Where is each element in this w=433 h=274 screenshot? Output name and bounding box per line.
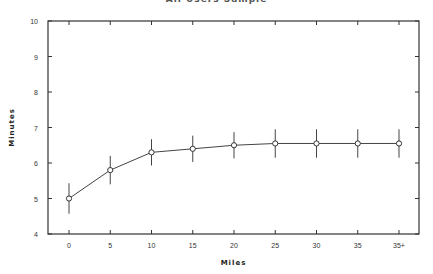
x-tick-label: 10 xyxy=(148,242,156,249)
x-tick-label: 35 xyxy=(354,242,362,249)
line-chart: 456789100510152025303535+MilesMinutes xyxy=(0,0,433,274)
x-tick-label: 25 xyxy=(271,242,279,249)
y-tick-label: 10 xyxy=(30,18,38,25)
data-point xyxy=(108,168,113,173)
x-tick-label: 0 xyxy=(67,242,71,249)
y-tick-label: 4 xyxy=(34,231,38,238)
x-tick-label: 15 xyxy=(189,242,197,249)
y-tick-label: 8 xyxy=(34,89,38,96)
data-point xyxy=(355,141,360,146)
data-point xyxy=(190,146,195,151)
data-point xyxy=(314,141,319,146)
x-tick-label: 5 xyxy=(108,242,112,249)
y-tick-label: 9 xyxy=(34,54,38,61)
plot-frame xyxy=(48,21,419,234)
data-point xyxy=(231,143,236,148)
x-tick-label: 20 xyxy=(230,242,238,249)
data-point xyxy=(66,196,71,201)
x-axis-label: Miles xyxy=(221,259,247,267)
data-point xyxy=(149,150,154,155)
x-tick-label: 30 xyxy=(313,242,321,249)
data-point xyxy=(396,141,401,146)
y-tick-label: 6 xyxy=(34,160,38,167)
y-axis-label: Minutes xyxy=(8,108,16,147)
x-tick-label: 35+ xyxy=(393,242,405,249)
data-point xyxy=(273,141,278,146)
y-tick-label: 7 xyxy=(34,125,38,132)
y-tick-label: 5 xyxy=(34,196,38,203)
